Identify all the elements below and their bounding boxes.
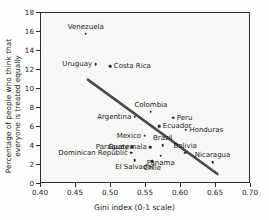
x-tick-label: 0.50 (102, 189, 118, 197)
x-tick-mark (110, 183, 111, 187)
data-point (109, 65, 112, 68)
x-tick-label: 0.45 (67, 189, 83, 197)
y-tick-label: 2 (29, 161, 34, 168)
x-tick-label: 0.65 (207, 189, 223, 197)
data-point (134, 159, 137, 162)
y-tick-label: 12 (25, 66, 34, 73)
data-point (159, 154, 162, 157)
data-point (130, 151, 133, 154)
data-point-label: Honduras (189, 126, 223, 133)
data-point-label: Mexico (117, 132, 141, 139)
x-tick-label: 0.40 (32, 189, 48, 197)
data-point (151, 160, 154, 163)
x-tick-label: 0.60 (172, 189, 188, 197)
x-tick-mark (215, 183, 216, 187)
data-point-label: Venezuela (68, 23, 104, 30)
data-point (85, 33, 88, 36)
data-point (162, 144, 165, 147)
x-tick-mark (40, 183, 41, 187)
y-tick-label: 6 (29, 123, 34, 130)
data-point (211, 161, 214, 164)
y-tick-label: 4 (29, 142, 34, 149)
data-point (94, 63, 97, 66)
data-point (131, 146, 134, 149)
data-point-label: Chile (144, 165, 162, 172)
data-point-label: Colombia (134, 101, 167, 108)
data-point-label: Peru (177, 114, 193, 121)
data-point (143, 134, 146, 137)
data-point (158, 125, 161, 128)
data-point-label: Uruguay (62, 61, 92, 68)
x-tick-mark (180, 183, 181, 187)
data-point (134, 115, 137, 118)
data-point-label: Costa Rica (114, 63, 151, 70)
y-tick-label: 14 (25, 47, 34, 54)
data-point (172, 116, 175, 119)
x-tick-mark (250, 183, 251, 187)
x-axis-label: Gini index (0-1 scale) (0, 203, 269, 212)
x-tick-mark (145, 183, 146, 187)
x-tick-label: 0.70 (242, 189, 258, 197)
plot-area: VenezuelaUruguayCosta RicaColombiaPeruAr… (40, 12, 250, 183)
data-point (149, 146, 152, 149)
data-point-label: Bolivia (174, 142, 197, 149)
data-point (185, 129, 188, 132)
data-point-label: Argentina (97, 113, 131, 120)
y-axis-label: Percentage of people who think that ever… (4, 21, 22, 191)
data-point-label: Dominican Republic (58, 149, 128, 156)
y-tick-label: 18 (25, 9, 34, 16)
x-tick-mark (75, 183, 76, 187)
data-point-label: Brazil (153, 135, 173, 142)
y-tick-label: 8 (29, 104, 34, 111)
x-tick-label: 0.55 (137, 189, 153, 197)
y-tick-label: 10 (25, 85, 34, 92)
data-point (184, 151, 187, 154)
scatter-chart-figure: 024681012141618 VenezuelaUruguayCosta Ri… (0, 0, 269, 220)
data-point (150, 111, 153, 114)
data-point-label: Nicaragua (195, 152, 231, 159)
y-tick-label: 16 (25, 28, 34, 35)
